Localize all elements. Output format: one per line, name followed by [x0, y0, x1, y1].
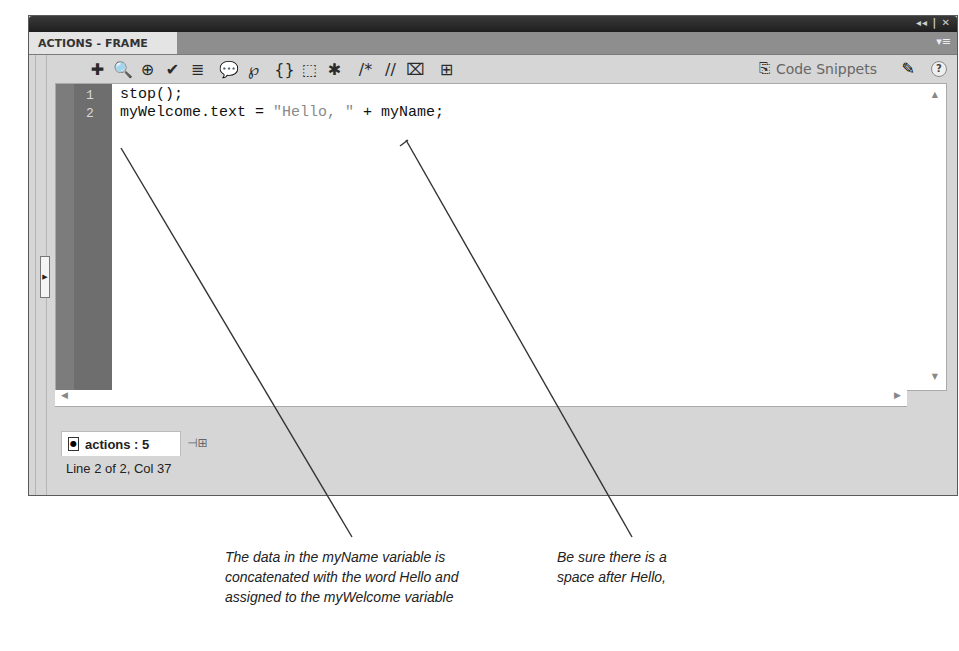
callout-space-note: Be sure there is a space after Hello,: [557, 547, 667, 587]
callout-concatenation-note: The data in the myName variable is conca…: [225, 547, 458, 607]
callout-lines: [0, 0, 959, 651]
